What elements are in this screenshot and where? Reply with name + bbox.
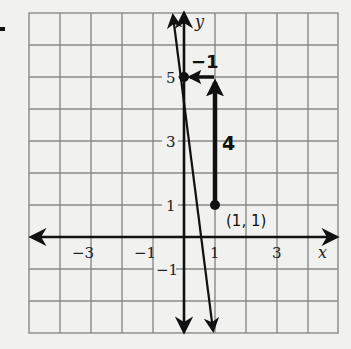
point-1-1 [210,200,220,210]
x-tick-label: −1 [134,244,156,262]
problem-marker [0,27,5,31]
y-tick-label: 3 [166,133,176,151]
y-tick-label: −1 [156,261,178,279]
x-tick-label: 1 [210,244,220,262]
run-label: −1 [191,51,219,72]
y-axis-label: y [194,12,205,31]
y-tick-label: 5 [166,69,176,87]
rise-label: 4 [222,132,235,154]
coordinate-graph: y x −3 −1 1 3 5 3 1 −1 −1 4 (1, 1) [0,0,351,349]
x-axis-label: x [318,243,327,262]
y-intercept-point [179,72,189,82]
point-label: (1, 1) [226,212,266,230]
x-tick-label: −3 [72,244,94,262]
x-tick-label: 3 [272,244,282,262]
y-tick-label: 1 [166,197,176,215]
